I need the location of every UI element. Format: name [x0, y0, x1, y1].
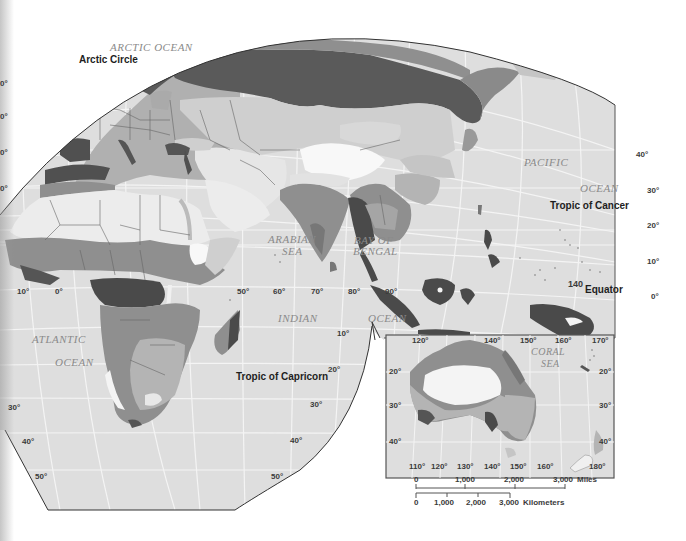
lon-label-70: 70° — [311, 288, 323, 296]
lat-label-south-40: 40° — [290, 437, 302, 445]
inset-bottom-lon-160: 160° — [537, 463, 554, 471]
scale-km-3000: 3,000 — [499, 499, 519, 507]
lat-label-right-20: 20° — [647, 222, 659, 230]
lat-label-left-4: 0° — [0, 185, 8, 193]
inset-bottom-lon-180: 180° — [589, 463, 606, 471]
label-coral-sea: SEA — [541, 359, 560, 369]
inset-right-lat-20: 20° — [599, 368, 611, 376]
label-indian-ocean: OCEAN — [368, 313, 407, 324]
lon-label-80: 80° — [348, 288, 360, 296]
scale-km-unit: Kilometers — [523, 499, 564, 507]
lat-label-left-3: 0° — [0, 149, 8, 157]
scale-km-0: 0 — [414, 499, 418, 507]
label-arabian: ARABIAN — [268, 234, 316, 245]
inset-bottom-lon-140: 140° — [484, 463, 501, 471]
scale-miles-1000: 1,000 — [455, 476, 475, 484]
label-arctic-circle: Arctic Circle — [79, 55, 138, 65]
lat-label-south-50: 50° — [271, 473, 283, 481]
lat-label-right-40: 40° — [636, 151, 648, 159]
inset-bottom-lon-120: 120° — [431, 463, 448, 471]
lat-label-south-20: 20° — [328, 366, 340, 374]
lat-label-south-10: 10° — [337, 330, 349, 338]
scale-miles-unit: Miles — [577, 476, 597, 484]
scale-miles-3000: 3,000 — [553, 476, 573, 484]
lat-label-left-30: 30° — [8, 404, 20, 412]
lat-label-right-30: 30° — [647, 187, 659, 195]
lat-label-south-30: 30° — [310, 401, 322, 409]
label-coral: CORAL — [531, 347, 565, 357]
climate-map-graphic — [0, 0, 686, 541]
inset-top-lon-140: 140° — [484, 337, 501, 345]
lat-label-left-2: 0° — [0, 113, 8, 121]
inset-top-lon-160: 160° — [555, 337, 572, 345]
label-bengal: BENGAL — [353, 246, 398, 257]
lon-label-50: 50° — [237, 288, 249, 296]
inset-right-lat-30: 30° — [599, 402, 611, 410]
lat-label-right-0: 0° — [651, 293, 659, 301]
label-140: 140 — [568, 280, 583, 289]
label-arctic-ocean: ARCTIC OCEAN — [110, 42, 193, 53]
lon-label-90: 90° — [385, 288, 397, 296]
label-pacific-ocean: OCEAN — [580, 183, 619, 194]
scale-km-1000: 1,000 — [434, 499, 454, 507]
inset-left-lat-40: 40° — [389, 438, 401, 446]
lon-label-0: 0° — [55, 288, 63, 296]
inset-bottom-lon-150: 150° — [510, 463, 527, 471]
lon-label-60: 60° — [273, 288, 285, 296]
label-equator: Equator — [585, 285, 623, 295]
scale-bar-graphic — [416, 484, 565, 498]
label-arabian-sea: SEA — [282, 246, 302, 257]
inset-top-lon-170: 170° — [592, 337, 609, 345]
scale-miles-0: 0 — [414, 476, 418, 484]
inset-bottom-lon-110: 110° — [409, 463, 425, 471]
label-atlantic: ATLANTIC — [32, 334, 86, 345]
inset-right-lat-40: 40° — [599, 438, 611, 446]
inset-top-lon-120: 120° — [412, 337, 429, 345]
inset-map — [386, 335, 614, 478]
lat-label-left-50: 50° — [35, 473, 47, 481]
inset-top-lon-150: 150° — [520, 337, 537, 345]
inset-bottom-lon-130: 130° — [457, 463, 474, 471]
label-tropic-of-cancer: Tropic of Cancer — [550, 201, 629, 211]
label-tropic-of-capricorn: Tropic of Capricorn — [236, 372, 328, 382]
inset-left-lat-30: 30° — [389, 402, 401, 410]
scale-miles-2000: 2,000 — [504, 476, 524, 484]
label-pacific: PACIFIC — [524, 157, 568, 168]
label-indian: INDIAN — [278, 313, 318, 324]
lat-label-left-40: 40° — [22, 438, 34, 446]
lon-label-10w: 10° — [17, 288, 29, 296]
label-atlantic-ocean: OCEAN — [55, 357, 94, 368]
scale-km-2000: 2,000 — [466, 499, 486, 507]
inset-left-lat-20: 20° — [389, 368, 401, 376]
lat-label-left-1: 0° — [0, 80, 8, 88]
lat-label-right-10: 10° — [647, 258, 659, 266]
